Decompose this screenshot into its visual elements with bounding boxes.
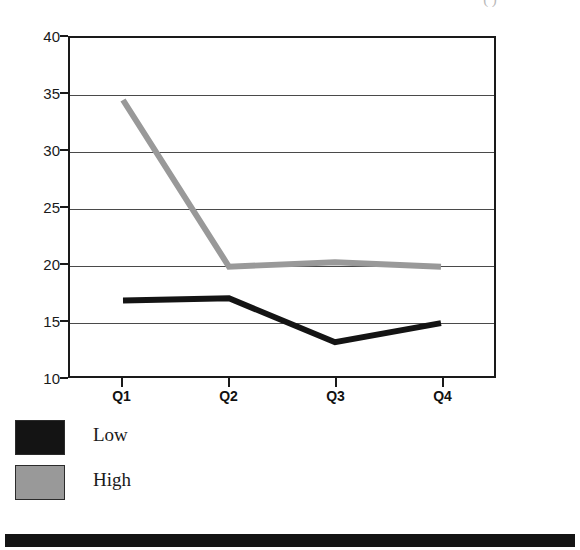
y-axis-tickmark	[60, 92, 68, 94]
y-axis-tick-label: 20	[16, 256, 60, 273]
series-lines	[70, 38, 494, 376]
y-axis-tickmark	[60, 149, 68, 151]
x-axis-tickmarks	[68, 378, 496, 387]
y-axis-tickmark	[60, 263, 68, 265]
x-axis-tickmark	[442, 378, 444, 387]
x-axis-tick-label: Q2	[199, 388, 259, 404]
x-axis-tick-label: Q3	[306, 388, 366, 404]
x-axis-tickmark	[121, 378, 123, 387]
y-axis-labels: 10152025303540	[14, 36, 60, 378]
y-axis-tick-label: 30	[16, 142, 60, 159]
plot-area	[68, 36, 496, 378]
chart-figure: ( ) 10152025303540 Q1Q2Q3Q4 LowHigh	[0, 0, 580, 550]
legend-label: High	[93, 469, 131, 491]
y-axis-tick-label: 35	[16, 85, 60, 102]
y-axis-tickmark	[60, 377, 68, 379]
y-axis-tickmark	[60, 35, 68, 37]
y-axis-tick-label: 10	[16, 370, 60, 387]
series-line-low	[123, 298, 441, 342]
series-line-high	[123, 100, 441, 267]
legend-item[interactable]: High	[15, 465, 315, 510]
y-axis-tickmarks	[60, 36, 68, 378]
chart-title: ( )	[420, 0, 560, 7]
legend-item[interactable]: Low	[15, 420, 315, 465]
y-axis-tickmark	[60, 206, 68, 208]
x-axis-labels: Q1Q2Q3Q4	[68, 388, 496, 408]
x-axis-tick-label: Q1	[92, 388, 152, 404]
chart-legend: LowHigh	[15, 420, 315, 510]
legend-swatch-high	[15, 465, 65, 500]
x-axis-tick-label: Q4	[413, 388, 473, 404]
bottom-black-bar	[5, 534, 575, 547]
y-axis-tick-label: 25	[16, 199, 60, 216]
x-axis-tickmark	[228, 378, 230, 387]
y-axis-tick-label: 40	[16, 28, 60, 45]
y-axis-tick-label: 15	[16, 313, 60, 330]
legend-label: Low	[93, 424, 128, 446]
y-axis-tickmark	[60, 320, 68, 322]
legend-swatch-low	[15, 420, 65, 455]
x-axis-tickmark	[335, 378, 337, 387]
